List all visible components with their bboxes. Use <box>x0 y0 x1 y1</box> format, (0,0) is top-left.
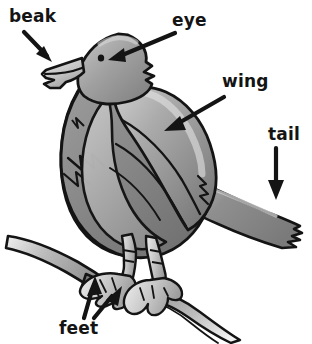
bird-anatomy-diagram: beak eye wing tail feet <box>0 0 312 344</box>
arrow-tail <box>268 148 284 200</box>
bird-illustration <box>0 0 312 344</box>
label-tail: tail <box>268 126 300 143</box>
label-feet: feet <box>59 320 98 337</box>
label-beak: beak <box>9 8 56 25</box>
label-wing: wing <box>222 73 269 90</box>
label-eye: eye <box>172 12 207 29</box>
arrow-beak <box>24 32 52 62</box>
eye <box>98 54 104 61</box>
